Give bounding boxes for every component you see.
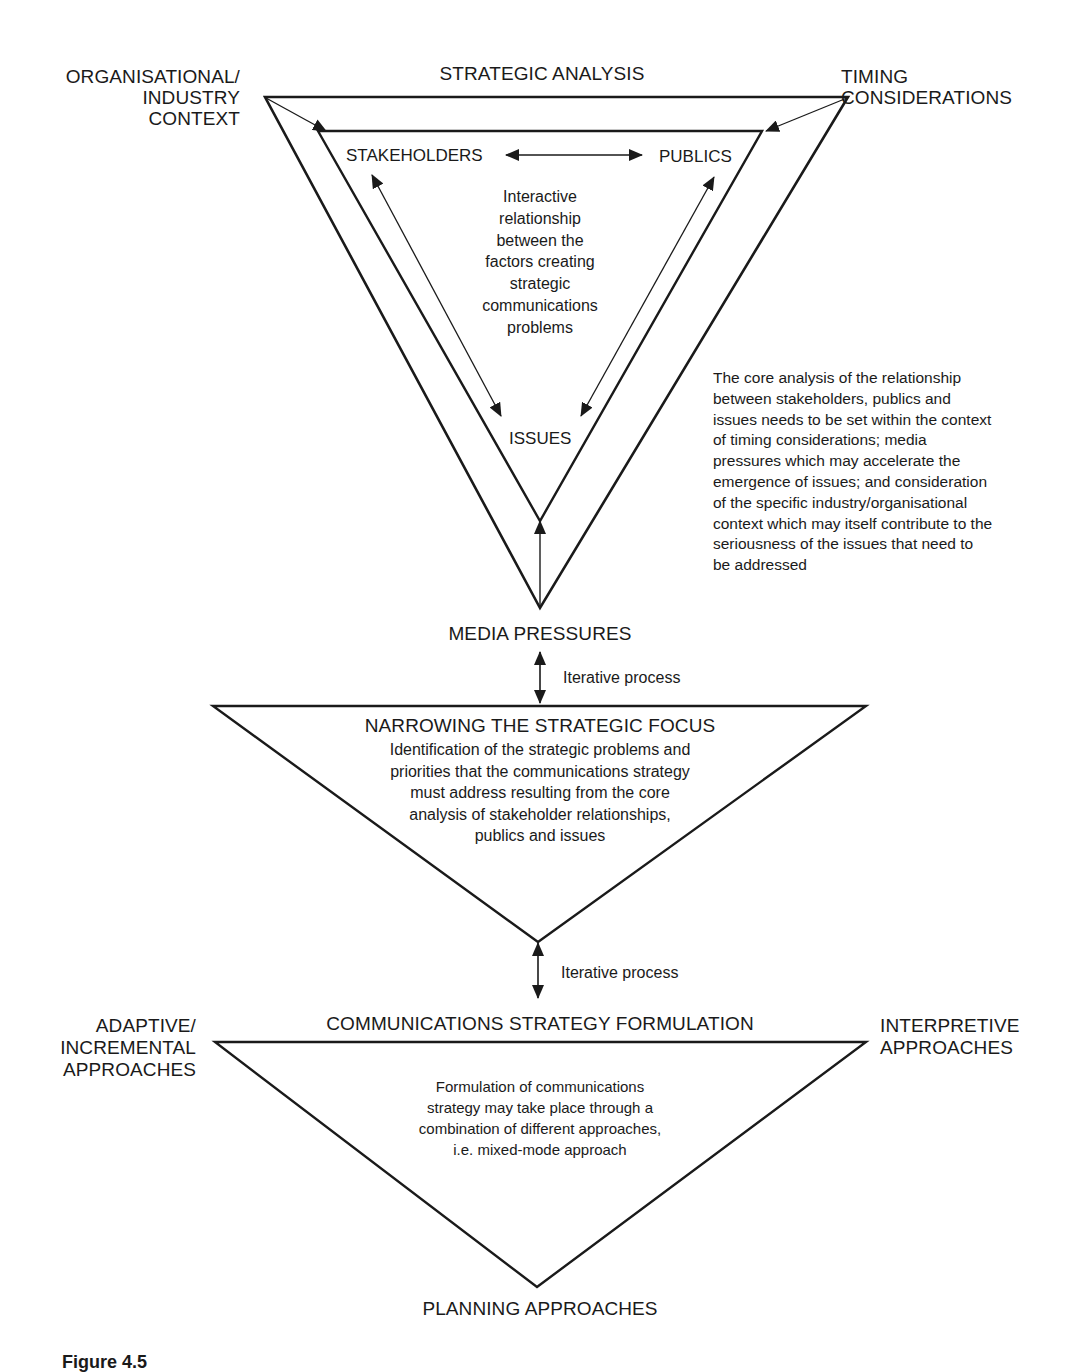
side-note-line: context which may itself contribute to t…: [713, 514, 992, 535]
narrowing-focus-title: NARROWING THE STRATEGIC FOCUS: [340, 716, 740, 735]
center-text-line: between the: [440, 230, 640, 252]
side-note-line: of the specific industry/organisational: [713, 493, 992, 514]
center-text-line: relationship: [440, 208, 640, 230]
middle-body-line: publics and issues: [340, 825, 740, 847]
bottom-left-line: INCREMENTAL: [60, 1037, 196, 1059]
bottom-left-line: APPROACHES: [60, 1059, 196, 1081]
corner-right-line-1: TIMING: [841, 66, 1012, 87]
corner-label-interpretive: INTERPRETIVE APPROACHES: [880, 1015, 1020, 1059]
corner-label-timing-considerations: TIMING CONSIDERATIONS: [841, 66, 1012, 108]
narrowing-focus-body: Identification of the strategic problems…: [340, 739, 740, 847]
bottom-left-line: ADAPTIVE/: [60, 1015, 196, 1037]
side-note-line: be addressed: [713, 555, 992, 576]
middle-body-line: must address resulting from the core: [340, 782, 740, 804]
corner-label-organisational-context: ORGANISATIONAL/ INDUSTRY CONTEXT: [66, 66, 240, 129]
middle-body-line: analysis of stakeholder relationships,: [340, 804, 740, 826]
side-note: The core analysis of the relationship be…: [713, 368, 992, 576]
corner-left-line-2: INDUSTRY: [66, 87, 240, 108]
center-text-line: strategic: [440, 273, 640, 295]
bottom-right-line: INTERPRETIVE: [880, 1015, 1020, 1037]
publics-label: PUBLICS: [659, 148, 732, 165]
corner-label-adaptive-incremental: ADAPTIVE/ INCREMENTAL APPROACHES: [60, 1015, 196, 1081]
side-note-line: issues needs to be set within the contex…: [713, 410, 992, 431]
center-text-line: factors creating: [440, 251, 640, 273]
iterative-process-label-1: Iterative process: [563, 667, 680, 688]
stakeholders-label: STAKEHOLDERS: [346, 147, 483, 164]
iterative-process-label-2: Iterative process: [561, 962, 678, 983]
interactive-relationship-text: Interactive relationship between the fac…: [440, 186, 640, 339]
side-note-line: of timing considerations; media: [713, 430, 992, 451]
corner-left-line-1: ORGANISATIONAL/: [66, 66, 240, 87]
side-note-line: emergence of issues; and consideration: [713, 472, 992, 493]
strategy-formulation-body: Formulation of communications strategy m…: [380, 1076, 700, 1160]
middle-body-line: Identification of the strategic problems…: [340, 739, 740, 761]
strategic-analysis-title: STRATEGIC ANALYSIS: [407, 64, 677, 83]
bottom-body-line: i.e. mixed-mode approach: [380, 1139, 700, 1160]
center-text-line: Interactive: [440, 186, 640, 208]
side-note-line: pressures which may accelerate the: [713, 451, 992, 472]
bottom-body-line: Formulation of communications: [380, 1076, 700, 1097]
bottom-body-line: combination of different approaches,: [380, 1118, 700, 1139]
bottom-right-line: APPROACHES: [880, 1037, 1020, 1059]
side-note-line: between stakeholders, publics and: [713, 389, 992, 410]
center-text-line: problems: [440, 317, 640, 339]
side-note-line: seriousness of the issues that need to: [713, 534, 992, 555]
corner-left-line-3: CONTEXT: [66, 108, 240, 129]
center-text-line: communications: [440, 295, 640, 317]
figure-caption: Figure 4.5: [62, 1353, 147, 1371]
timing-arrow: [766, 98, 847, 131]
middle-body-line: priorities that the communications strat…: [340, 761, 740, 783]
strategy-formulation-title: COMMUNICATIONS STRATEGY FORMULATION: [290, 1014, 790, 1033]
corner-right-line-2: CONSIDERATIONS: [841, 87, 1012, 108]
bottom-body-line: strategy may take place through a: [380, 1097, 700, 1118]
side-note-line: The core analysis of the relationship: [713, 368, 992, 389]
media-pressures-label: MEDIA PRESSURES: [410, 624, 670, 643]
planning-approaches-label: PLANNING APPROACHES: [390, 1299, 690, 1318]
issues-label: ISSUES: [509, 430, 571, 447]
